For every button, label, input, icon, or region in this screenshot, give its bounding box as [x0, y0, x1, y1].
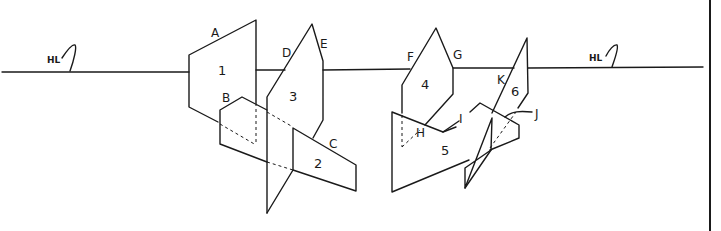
point-j-label: J [534, 107, 539, 121]
plane-1: 1 [189, 20, 256, 145]
svg-text:HL: HL [47, 55, 61, 65]
plane-2: 2 [293, 128, 356, 191]
j-pointer [505, 112, 532, 117]
point-k-label: K [497, 73, 506, 87]
plane-5-label: 5 [441, 143, 449, 158]
hl-label-left: HL [47, 45, 76, 71]
point-e-label: E [320, 37, 328, 51]
plane-5: 5 [392, 112, 469, 192]
point-d-label: D [282, 46, 291, 60]
perspective-diagram: HL HL 1 3 2 A B C D E 4 [0, 0, 721, 231]
plane-thin [465, 118, 492, 188]
svg-text:HL: HL [589, 53, 603, 63]
plane-ij [470, 103, 519, 150]
plane-4-label: 4 [421, 77, 429, 92]
plane-3-label: 3 [289, 89, 297, 104]
plane-2-label: 2 [314, 156, 322, 171]
hl-label-right: HL [589, 45, 618, 67]
point-g-label: G [453, 48, 462, 62]
point-b-label: B [222, 91, 230, 105]
plane-4: 4 [402, 28, 453, 125]
point-f-label: F [407, 50, 414, 64]
point-i-label: I [459, 112, 463, 126]
horizon-line [2, 67, 703, 72]
point-a-label: A [211, 26, 220, 40]
plane-3: 3 [267, 24, 323, 213]
plane-6-label: 6 [511, 84, 519, 99]
plane-1-label: 1 [218, 63, 226, 78]
point-c-label: C [329, 137, 337, 151]
point-h-label: H [416, 126, 425, 140]
